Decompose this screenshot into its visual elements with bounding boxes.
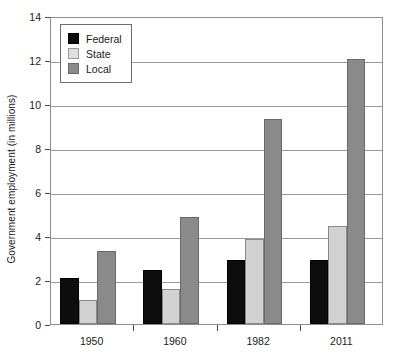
y-axis-tick-label: 4 [9,232,41,242]
y-axis-tick-label-wrap: 2 [0,276,41,286]
y-axis-tick-label-wrap: 10 [0,100,41,110]
y-axis-tick-label-wrap: 12 [0,56,41,66]
x-axis-tick-mark [133,325,134,331]
legend-swatch-icon-federal [68,33,79,44]
x-axis-tick-label-1982: 1982 [223,335,293,347]
y-axis-tick-label: 12 [9,56,41,66]
legend-label: Federal [86,33,122,45]
bar-local-1960 [180,217,199,324]
bar-chart-figure: Government employment (in millions) 0246… [0,0,397,358]
y-axis-tick-label-wrap: 0 [0,320,41,330]
bar-federal-1982 [227,260,246,324]
bar-federal-2011 [310,260,329,324]
y-axis-tick-label: 2 [9,276,41,286]
x-axis-tick-mark [300,325,301,331]
bar-federal-1960 [143,270,162,324]
legend: FederalStateLocal [60,24,132,83]
x-axis-tick-mark [217,325,218,331]
y-axis-title: Government employment (in millions) [0,0,22,358]
gridline [51,194,382,195]
y-axis-tick-label: 10 [9,100,41,110]
bar-state-1960 [162,289,181,324]
y-axis-tick-label: 14 [9,12,41,22]
bar-local-2011 [347,59,366,324]
legend-swatch-icon-state [68,48,79,59]
gridline [51,150,382,151]
y-axis-tick-label: 8 [9,144,41,154]
legend-item-federal: Federal [68,31,122,46]
y-axis-tick-label-wrap: 4 [0,232,41,242]
bar-state-2011 [328,226,347,324]
bar-federal-1950 [60,278,79,324]
legend-item-state: State [68,46,122,61]
x-axis-tick-label-2011: 2011 [306,335,376,347]
y-axis-tick-label-wrap: 14 [0,12,41,22]
bar-local-1982 [264,119,283,324]
x-axis-tick-label-1960: 1960 [140,335,210,347]
x-axis-tick-label-1950: 1950 [57,335,127,347]
y-axis-tick-label-wrap: 8 [0,144,41,154]
y-axis-tick-mark [45,325,50,326]
legend-label: Local [86,63,111,75]
bar-state-1982 [245,239,264,324]
legend-item-local: Local [68,61,122,76]
y-axis-tick-label: 0 [9,320,41,330]
bar-local-1950 [97,251,116,324]
y-axis-tick-label-wrap: 6 [0,188,41,198]
legend-label: State [86,48,111,60]
gridline [51,106,382,107]
legend-swatch-icon-local [68,63,79,74]
y-axis-tick-label: 6 [9,188,41,198]
bar-state-1950 [79,300,98,324]
